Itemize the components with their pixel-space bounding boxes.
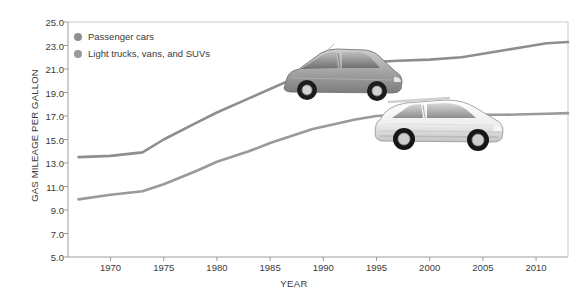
legend-label-light-trucks: Light trucks, vans, and SUVs bbox=[88, 48, 210, 59]
legend-label-passenger-cars: Passenger cars bbox=[88, 31, 154, 42]
legend-item-passenger-cars[interactable]: Passenger cars bbox=[74, 30, 210, 43]
legend-item-light-trucks[interactable]: Light trucks, vans, and SUVs bbox=[74, 47, 210, 60]
y-tick-marks bbox=[64, 22, 68, 257]
suv-photo bbox=[372, 92, 506, 154]
legend-marker-passenger-cars bbox=[74, 33, 82, 41]
chart-legend: Passenger cars Light trucks, vans, and S… bbox=[74, 30, 210, 64]
x-tick-marks bbox=[111, 257, 537, 261]
legend-marker-light-trucks bbox=[74, 50, 82, 58]
chart-figure: GAS MILEAGE PER GALLON YEAR 5.07.09.011.… bbox=[0, 0, 588, 301]
